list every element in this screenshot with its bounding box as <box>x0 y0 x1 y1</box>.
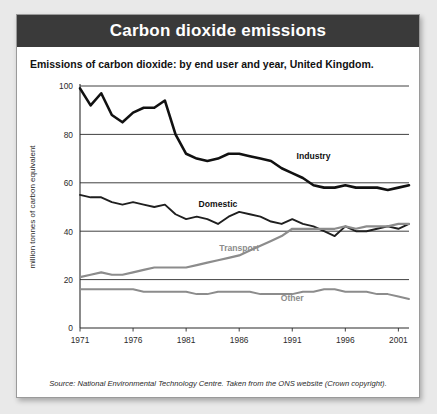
page-title: Carbon dioxide emissions <box>110 21 326 41</box>
x-tick-label: 1996 <box>336 335 355 345</box>
card-header: Carbon dioxide emissions <box>17 15 419 47</box>
series-label-domestic: Domestic <box>199 199 238 209</box>
x-tick-label: 1981 <box>177 335 196 345</box>
series-label-other: Other <box>281 293 305 303</box>
x-tick-label: 2001 <box>389 335 408 345</box>
y-tick-label: 40 <box>64 227 74 237</box>
line-chart: 0204060801001971197619811986199119962001… <box>17 76 420 364</box>
y-tick-label: 60 <box>64 178 74 188</box>
chart-subtitle: Emissions of carbon dioxide: by end user… <box>30 58 419 70</box>
y-tick-label: 80 <box>64 130 74 140</box>
series-line-other <box>80 289 409 299</box>
x-tick-label: 1971 <box>71 335 90 345</box>
page-background: Carbon dioxide emissions Emissions of ca… <box>0 0 437 414</box>
y-tick-label: 100 <box>59 81 73 91</box>
series-line-domestic <box>80 195 409 236</box>
chart-card: Carbon dioxide emissions Emissions of ca… <box>16 14 420 398</box>
source-note: Source: National Environmental Technolog… <box>17 379 419 388</box>
series-label-industry: Industry <box>297 151 331 161</box>
y-tick-label: 20 <box>64 275 74 285</box>
series-line-industry <box>80 88 409 190</box>
chart-plot-area: 0204060801001971197619811986199119962001… <box>17 76 420 364</box>
y-axis-title: million tonnes of carbon equivalent <box>28 145 37 269</box>
series-label-transport: Transport <box>219 243 259 253</box>
x-tick-label: 1986 <box>230 335 249 345</box>
y-tick-label: 0 <box>68 323 73 333</box>
x-tick-label: 1991 <box>283 335 302 345</box>
x-tick-label: 1976 <box>124 335 143 345</box>
